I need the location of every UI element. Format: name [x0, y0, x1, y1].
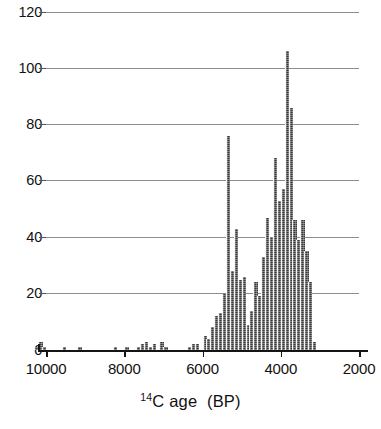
y-tick-label-40: 40 [2, 230, 42, 245]
y-tick-mark-20 [39, 293, 46, 294]
x-tick-label-8000: 8000 [108, 361, 141, 377]
x-axis-title-superscript: 14 [140, 391, 152, 403]
x-tick-mark [203, 351, 205, 357]
x-tick-label-6000: 6000 [186, 361, 219, 377]
y-tick-label-60: 60 [2, 173, 42, 188]
x-tick-mark [124, 351, 126, 357]
y-tick-label-20: 20 [2, 286, 42, 301]
y-tick-mark-40 [39, 237, 46, 238]
x-axis-title-main: C age [152, 392, 197, 410]
y-axis-origin-tick [38, 344, 40, 352]
x-tick-label-2000: 2000 [343, 361, 376, 377]
y-tick-mark-60 [39, 180, 46, 181]
x-tick-label-10000: 10000 [26, 361, 67, 377]
y-tick-mark-80 [39, 124, 46, 125]
y-tick-mark-120 [39, 12, 46, 13]
radiocarbon-age-histogram: 120 100 80 60 40 20 0 100008000600040002… [0, 0, 381, 429]
y-tick-label-120: 120 [2, 5, 42, 20]
y-tick-mark-100 [39, 68, 46, 69]
y-tick-label-80: 80 [2, 117, 42, 132]
histogram-bar [312, 342, 316, 350]
x-tick-label-4000: 4000 [264, 361, 297, 377]
x-axis-title-unit: (BP) [207, 392, 241, 410]
x-axis-title: 14C age (BP) [0, 392, 381, 410]
bars-layer [46, 12, 359, 350]
x-tick-mark [359, 351, 361, 357]
y-tick-label-0: 0 [2, 343, 42, 358]
y-tick-label-100: 100 [2, 61, 42, 76]
x-tick-mark [281, 351, 283, 357]
histogram-bar [308, 282, 312, 350]
x-tick-mark [46, 351, 48, 357]
